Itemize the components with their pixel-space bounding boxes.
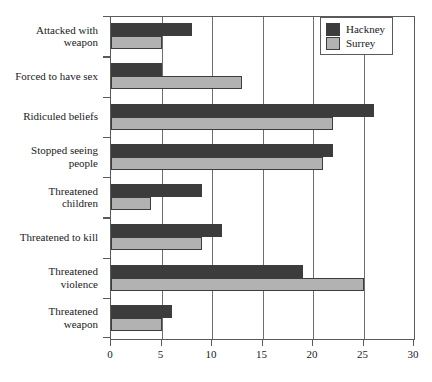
- bar-hackney: [111, 23, 192, 36]
- x-tick: [363, 339, 364, 346]
- x-tick: [110, 339, 111, 346]
- legend-swatch-icon: [326, 23, 340, 36]
- x-tick-label: 15: [256, 348, 267, 360]
- y-axis-category-labels: Attacked withweaponForced to have sexRid…: [0, 16, 104, 338]
- bar-hackney: [111, 305, 172, 318]
- bar-surrey: [111, 318, 162, 331]
- x-tick: [312, 339, 313, 346]
- x-axis-tick-labels: 051015202530: [110, 348, 413, 366]
- legend-label: Hackney: [346, 23, 385, 35]
- y-axis-label-threatened-violence: Threatenedviolence: [0, 265, 98, 290]
- bar-series-layer: [111, 17, 414, 339]
- x-tick: [161, 339, 162, 346]
- y-axis-label-forced-to-have-sex: Forced to have sex: [0, 70, 98, 83]
- x-tick: [211, 339, 212, 346]
- bar-hackney: [111, 265, 303, 278]
- legend-label: Surrey: [346, 37, 375, 49]
- bar-group: [111, 98, 414, 138]
- y-label-line: Threatened to kill: [0, 231, 98, 244]
- bar-hackney: [111, 224, 222, 237]
- y-axis-label-stopped-seeing-people: Stopped seeingpeople: [0, 144, 98, 169]
- bar-hackney: [111, 184, 202, 197]
- x-tick-label: 25: [357, 348, 368, 360]
- bar-hackney: [111, 144, 333, 157]
- bar-surrey: [111, 117, 333, 130]
- y-label-line: Threatened: [0, 265, 98, 278]
- y-axis-label-threatened-weapon: Threatenedweapon: [0, 305, 98, 330]
- bar-group: [111, 57, 414, 97]
- y-label-line: Threatened: [0, 185, 98, 198]
- legend-entry-surrey: Surrey: [326, 36, 385, 50]
- plot-area: [110, 16, 415, 340]
- x-tick-label: 30: [408, 348, 419, 360]
- y-label-line: children: [0, 197, 98, 210]
- x-tick-label: 20: [307, 348, 318, 360]
- x-axis-tick-marks: [110, 339, 413, 346]
- bar-surrey: [111, 278, 364, 291]
- bar-group: [111, 299, 414, 339]
- x-tick-label: 5: [158, 348, 164, 360]
- bar-surrey: [111, 36, 162, 49]
- bar-hackney: [111, 63, 162, 76]
- y-label-line: violence: [0, 278, 98, 291]
- y-label-line: Threatened: [0, 305, 98, 318]
- y-axis-label-attacked-with-weapon: Attacked withweapon: [0, 24, 98, 49]
- y-label-line: people: [0, 157, 98, 170]
- bar-surrey: [111, 157, 323, 170]
- legend-entry-hackney: Hackney: [326, 22, 385, 36]
- x-tick-label: 0: [107, 348, 113, 360]
- y-label-line: weapon: [0, 318, 98, 331]
- chart-legend: HackneySurrey: [320, 17, 393, 55]
- x-tick-label: 10: [206, 348, 217, 360]
- y-axis-label-ridiculed-beliefs: Ridiculed beliefs: [0, 110, 98, 123]
- bar-hackney: [111, 104, 374, 117]
- y-axis-label-threatened-to-kill: Threatened to kill: [0, 231, 98, 244]
- bar-surrey: [111, 76, 242, 89]
- bar-chart: Attacked withweaponForced to have sexRid…: [0, 0, 432, 382]
- bar-group: [111, 178, 414, 218]
- y-label-line: Ridiculed beliefs: [0, 110, 98, 123]
- y-axis-label-threatened-children: Threatenedchildren: [0, 185, 98, 210]
- bar-group: [111, 259, 414, 299]
- bar-group: [111, 138, 414, 178]
- bar-group: [111, 218, 414, 258]
- bar-surrey: [111, 237, 202, 250]
- y-label-line: Forced to have sex: [0, 70, 98, 83]
- x-tick: [413, 339, 414, 346]
- x-tick: [262, 339, 263, 346]
- legend-swatch-icon: [326, 37, 340, 50]
- bar-surrey: [111, 197, 151, 210]
- y-label-line: Stopped seeing: [0, 144, 98, 157]
- y-label-line: Attacked with: [0, 24, 98, 37]
- y-label-line: weapon: [0, 36, 98, 49]
